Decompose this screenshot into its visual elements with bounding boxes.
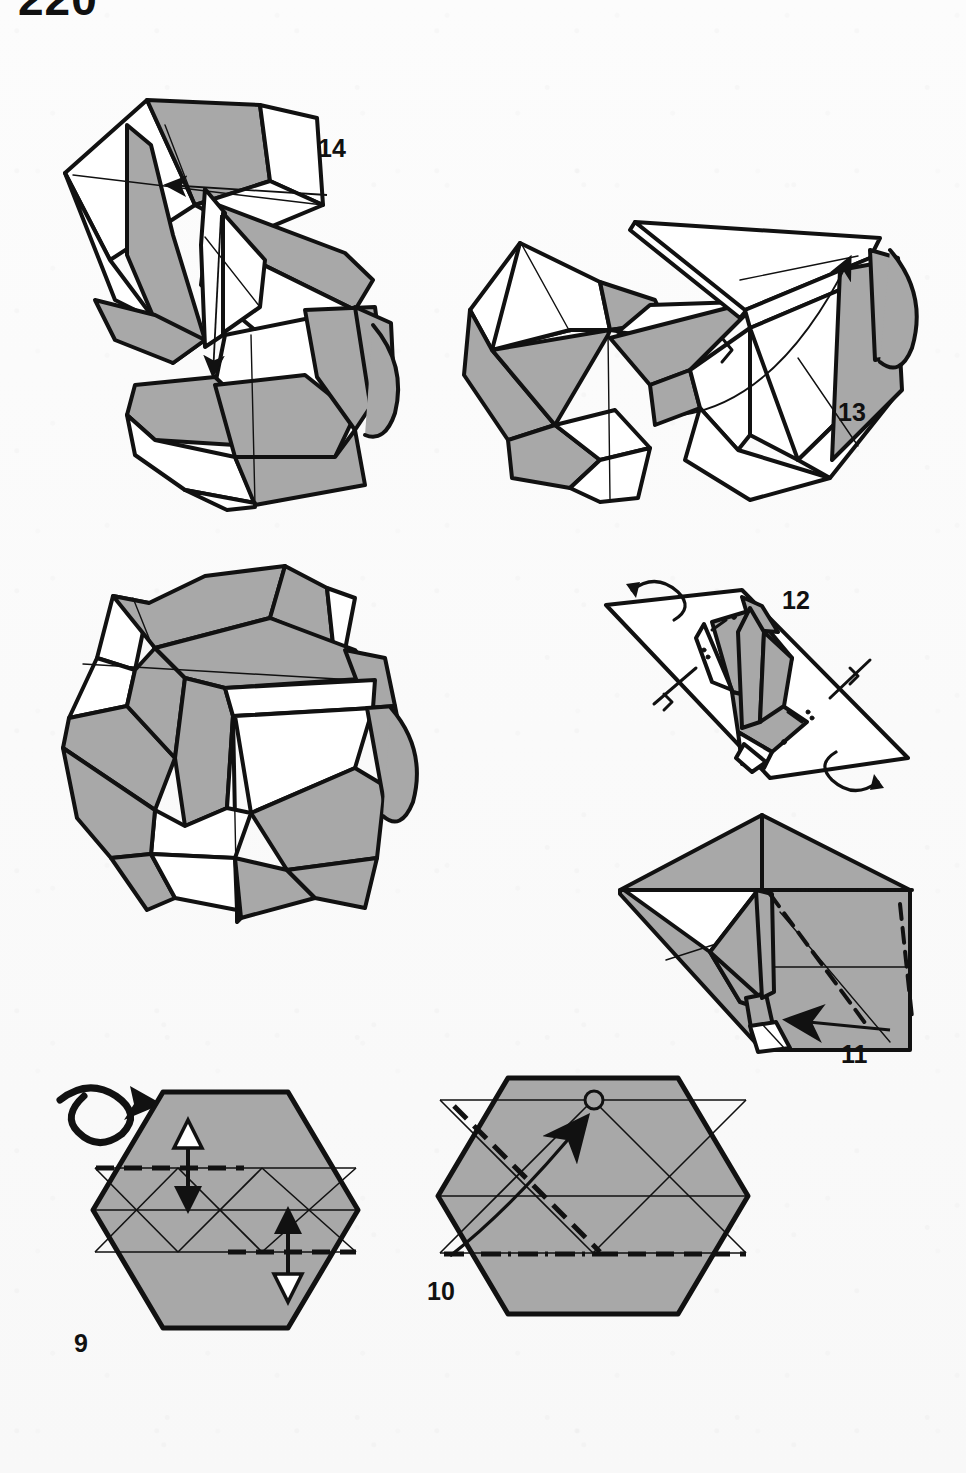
figure-step-10: 10 (418, 1078, 768, 1358)
paper-surfaces-13 (464, 222, 917, 502)
step-label-13: 13 (838, 400, 866, 425)
right-angle-mark-12-right (830, 660, 870, 698)
step-label-9: 9 (74, 1331, 88, 1356)
step-label-14: 14 (318, 136, 346, 161)
figure-step-12: 12 (592, 572, 922, 802)
step-label-12: 12 (782, 588, 810, 613)
figure-step-9: 9 (58, 1080, 398, 1410)
paper-hexagon-9 (93, 1092, 358, 1328)
page-number: 220 (18, 0, 98, 22)
paper-surfaces-11 (620, 815, 912, 1052)
paper-surfaces-12 (606, 581, 908, 790)
paper-hexagon-10 (438, 1078, 748, 1314)
paper-surfaces-final (63, 566, 417, 922)
paper-surfaces-14 (65, 100, 398, 510)
step-label-10: 10 (427, 1279, 455, 1304)
figure-final-model (55, 558, 445, 928)
figure-step-11: 11 (590, 812, 920, 1062)
figure-step-14: 14 (55, 85, 435, 515)
figure-step-13: 13 (450, 210, 910, 510)
reference-point-10 (585, 1091, 603, 1109)
step-label-11: 11 (841, 1042, 867, 1067)
